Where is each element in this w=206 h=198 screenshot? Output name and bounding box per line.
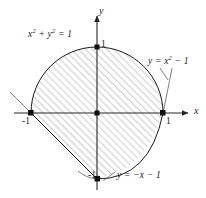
line-extension (10, 92, 31, 113)
parabola-eq-tail: − 1 (172, 56, 189, 66)
tick-label-y-minus1: -1 (88, 171, 96, 181)
label-parabola-equation: y = x2 − 1 (148, 55, 189, 67)
parabola-eq-lead: y = x (148, 56, 169, 66)
point-top (95, 45, 100, 50)
parabola-leader-line (160, 68, 168, 80)
label-line-equation: y = −x − 1 (117, 171, 161, 181)
point-right (160, 110, 166, 116)
point-left (28, 110, 34, 116)
y-axis-label: y (99, 6, 103, 16)
label-circle-equation: x2 + y2 = 1 (28, 28, 72, 40)
point-origin (95, 111, 100, 116)
x-axis-label: x (194, 106, 198, 116)
tick-label-x-minus1: -1 (22, 117, 30, 127)
circle-eq-tail: = 1 (55, 29, 72, 39)
circle-eq-mid: + y (36, 29, 52, 39)
tick-label-x-1: 1 (166, 117, 171, 127)
tick-label-y-1: 1 (101, 40, 106, 50)
math-figure: x2 + y2 = 1 y = x2 − 1 y = −x − 1 1 -1 1… (0, 0, 206, 198)
